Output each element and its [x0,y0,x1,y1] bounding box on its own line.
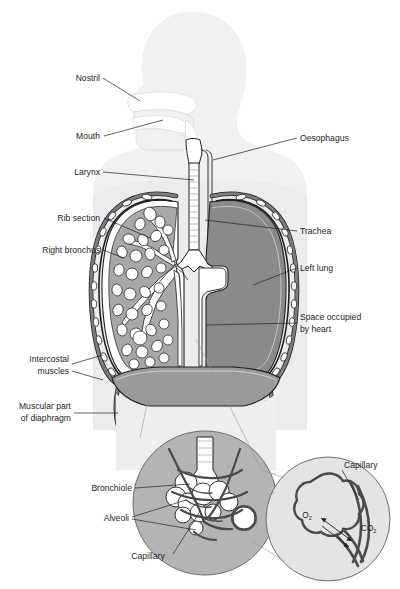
label-muscular-part-of-diaphragm-line1: Muscular part [19,401,72,411]
right-lung [102,200,188,380]
label-larynx: Larynx [74,167,100,177]
respiratory-system-diagram: O2 CO2 Nostril Mouth Larynx [0,0,400,589]
label-intercostal-muscles-line1: Intercostal [29,354,69,364]
label-rib-section: Rib section [57,213,100,223]
label-left-lung: Left lung [300,263,333,273]
label-alveoli: Alveoli [104,513,129,523]
label-mouth: Mouth [76,131,100,141]
label-space-occupied-by-heart-line2: by heart [300,324,332,334]
label-oesophagus: Oesophagus [300,133,349,143]
label-trachea: Trachea [300,226,331,236]
diaphragm-muscle [112,367,280,406]
label-muscular-part-of-diaphragm-line2: of diaphragm [21,413,71,423]
label-intercostal-muscles-line2: muscles [37,366,69,376]
label-nostril: Nostril [76,73,100,83]
label-bronchiole: Bronchiole [91,483,132,493]
gas-exchange-inset: O2 CO2 [266,457,390,581]
label-capillary-lower: Capillary [131,551,165,561]
label-space-occupied-by-heart-line1: Space occupied [300,312,361,322]
label-capillary-upper: Capillary [344,460,378,470]
left-lung [199,200,286,380]
label-right-bronchus: Right bronchus [42,245,100,255]
larynx [186,139,202,165]
alveolus-wall [294,474,363,536]
